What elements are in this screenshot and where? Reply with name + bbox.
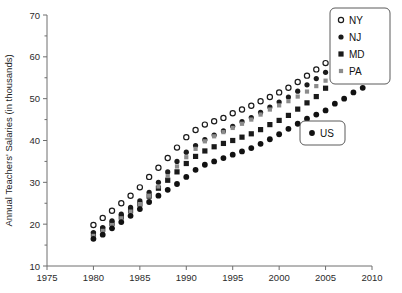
data-point [231, 126, 235, 130]
x-axis-group: 19751980198519901995200020052010 [36, 266, 382, 283]
x-tick-label: 1985 [129, 272, 150, 283]
data-point [156, 184, 160, 188]
x-tick-label: 1990 [176, 272, 197, 283]
data-point [203, 139, 207, 143]
y-tick-label: 30 [29, 177, 40, 188]
data-point [156, 180, 161, 185]
data-point [341, 96, 347, 102]
y-tick-label: 10 [29, 261, 40, 272]
y-axis-group: 10203040506070 [29, 10, 47, 272]
data-point [249, 117, 253, 121]
teacher-salaries-chart: 10203040506070 1975198019851990199520002… [0, 0, 402, 293]
data-point [249, 103, 254, 108]
legend-label-us: US [320, 128, 334, 139]
data-point [156, 193, 162, 199]
data-point [147, 194, 151, 198]
data-point [91, 222, 96, 227]
data-point [286, 94, 291, 99]
data-point [309, 130, 315, 136]
data-point [221, 155, 227, 161]
data-point [295, 107, 300, 112]
x-tick-label: 2010 [361, 272, 382, 283]
data-point [174, 159, 179, 164]
data-point [184, 155, 188, 159]
data-point [165, 187, 171, 193]
data-point [314, 76, 319, 81]
data-point [258, 141, 264, 147]
data-point [212, 119, 217, 124]
data-point [137, 206, 143, 212]
data-point [184, 150, 189, 155]
data-point [174, 181, 180, 187]
data-point [221, 141, 226, 146]
data-point [147, 174, 152, 179]
data-point [286, 85, 291, 90]
data-point [314, 84, 318, 88]
data-point [351, 89, 357, 95]
data-point [202, 148, 207, 153]
data-point [267, 122, 272, 127]
data-point [323, 107, 329, 113]
x-tick-label: 1980 [83, 272, 104, 283]
data-point [109, 208, 114, 213]
data-point [305, 89, 309, 93]
data-point [183, 174, 189, 180]
data-point [137, 185, 142, 190]
x-tick-label: 2005 [315, 272, 336, 283]
data-point [304, 82, 309, 87]
data-point [249, 131, 254, 136]
chart-canvas: 10203040506070 1975198019851990199520002… [0, 0, 402, 293]
data-point [258, 99, 263, 104]
data-point [202, 122, 207, 127]
data-point [314, 67, 319, 72]
data-point [166, 174, 170, 178]
legend-label-md: MD [349, 49, 365, 60]
data-point [239, 135, 244, 140]
data-point [360, 85, 366, 91]
data-point [276, 131, 282, 137]
data-point [100, 232, 106, 238]
x-tick-label: 1975 [36, 272, 57, 283]
data-point [193, 167, 199, 173]
data-point [239, 148, 245, 154]
y-tick-label: 20 [29, 219, 40, 230]
x-tick-label: 2000 [269, 272, 290, 283]
data-point [295, 79, 300, 84]
data-point [248, 145, 254, 151]
data-point [165, 169, 170, 174]
data-point [304, 100, 309, 105]
legend-label-nj: NJ [349, 32, 361, 43]
data-point [119, 201, 124, 206]
data-point [230, 152, 236, 158]
legend-label-ny: NY [349, 15, 363, 26]
series-us [91, 85, 366, 242]
data-point [277, 103, 281, 107]
data-point [221, 115, 226, 120]
data-point [175, 164, 179, 168]
data-point [109, 225, 115, 231]
data-point [184, 161, 189, 166]
data-point [268, 107, 272, 111]
data-point [286, 126, 292, 132]
data-point [339, 69, 343, 73]
data-point [230, 111, 235, 116]
y-tick-label: 60 [29, 51, 40, 62]
axis-titles-group: Annual Teachers' Salaries (in thousands) [3, 54, 14, 226]
data-point [323, 86, 328, 91]
data-point [91, 236, 97, 242]
data-point [295, 89, 300, 94]
data-point [258, 127, 263, 132]
y-tick-label: 70 [29, 10, 40, 21]
data-point [184, 135, 189, 140]
data-point [323, 61, 328, 66]
data-point [277, 118, 282, 123]
data-point [296, 94, 300, 98]
data-point [165, 178, 170, 183]
data-point [156, 165, 161, 170]
data-point [313, 112, 319, 118]
x-tick-label: 1995 [222, 272, 243, 283]
data-point [267, 94, 272, 99]
data-point [338, 34, 343, 39]
data-point [193, 127, 198, 132]
data-point [100, 215, 105, 220]
